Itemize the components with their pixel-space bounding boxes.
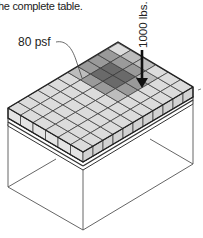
distributed-load-label: 80 psf	[18, 35, 51, 49]
point-load-label: 1000 lbs.	[137, 1, 149, 48]
slab-grid	[8, 42, 193, 162]
edge-tick	[198, 89, 201, 90]
slab-diagram: 80 psf 1000 lbs.	[0, 0, 203, 238]
